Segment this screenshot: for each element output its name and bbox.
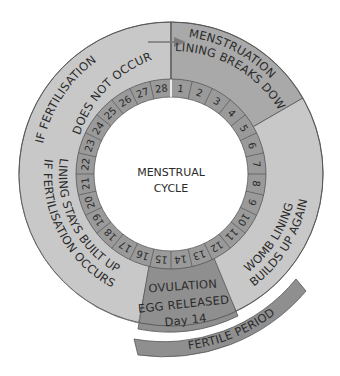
day-21: 21 bbox=[79, 177, 91, 191]
day-22: 22 bbox=[79, 157, 91, 171]
day-14: 14 bbox=[174, 253, 188, 265]
day-15: 15 bbox=[154, 253, 168, 265]
day-7: 7 bbox=[251, 161, 263, 169]
day-1: 1 bbox=[177, 83, 185, 95]
day-8: 8 bbox=[251, 180, 263, 188]
day-28: 28 bbox=[154, 82, 168, 94]
center-title-line2: CYCLE bbox=[154, 182, 188, 195]
menstrual-cycle-diagram: 1234567891011121314151617181920212223242… bbox=[0, 0, 340, 376]
center-title-line1: MENSTRUAL bbox=[137, 166, 206, 179]
